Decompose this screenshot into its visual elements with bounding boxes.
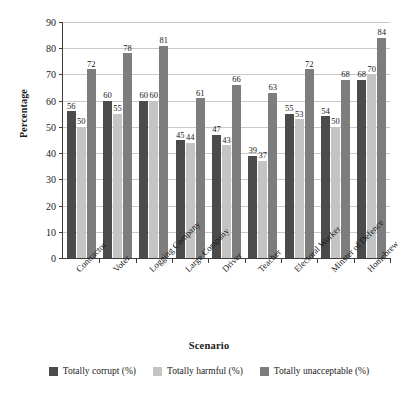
bar: 60: [149, 101, 158, 258]
bar-value-label: 47: [212, 125, 221, 134]
bar-value-label: 50: [77, 117, 86, 126]
x-tick-mark: [245, 258, 246, 263]
bar-value-label: 56: [67, 102, 76, 111]
legend-label: Totally corrupt (%): [63, 366, 136, 376]
bar: 66: [232, 85, 241, 258]
bar-value-label: 68: [341, 70, 350, 79]
bar: 37: [258, 161, 267, 258]
x-tick-mark: [354, 258, 355, 263]
x-tick-mark: [281, 258, 282, 263]
bar-value-label: 70: [368, 65, 377, 74]
y-tick-mark: [59, 153, 63, 154]
bar-group: 565072: [67, 22, 96, 258]
bar-value-label: 44: [186, 133, 195, 142]
bar: 56: [67, 111, 76, 258]
bar: 78: [123, 53, 132, 258]
y-tick-label: 40: [46, 148, 56, 159]
y-tick-mark: [59, 127, 63, 128]
y-tick-mark: [59, 101, 63, 102]
bar-value-label: 84: [378, 28, 387, 37]
bar-group: 555372: [285, 22, 314, 258]
bar-value-label: 55: [113, 104, 122, 113]
legend-label: Totally unacceptable (%): [274, 366, 369, 376]
bar-chart: Percentage 01020304050607080905650726055…: [0, 0, 418, 397]
bar: 61: [196, 98, 205, 258]
bar: 55: [113, 114, 122, 258]
legend-swatch: [260, 367, 269, 376]
y-tick-mark: [59, 74, 63, 75]
bar: 60: [139, 101, 148, 258]
y-tick-label: 90: [46, 17, 56, 28]
bar-value-label: 43: [222, 136, 231, 145]
bar-value-label: 60: [140, 91, 149, 100]
y-axis-title: Percentage: [18, 74, 29, 154]
bar-value-label: 45: [176, 131, 185, 140]
bar: 55: [285, 114, 294, 258]
bar: 72: [87, 69, 96, 258]
bar-value-label: 50: [331, 117, 340, 126]
legend-swatch: [153, 367, 162, 376]
bar-group: 605578: [103, 22, 132, 258]
bar-value-label: 37: [259, 151, 268, 160]
bar: 50: [77, 127, 86, 258]
bar-value-label: 63: [269, 83, 278, 92]
bar-group: 606081: [139, 22, 168, 258]
x-tick-mark: [136, 258, 137, 263]
bar-value-label: 53: [295, 110, 304, 119]
bar-value-label: 68: [358, 70, 367, 79]
legend-item: Totally unacceptable (%): [260, 366, 369, 376]
bar-group: 474366: [212, 22, 241, 258]
y-tick-label: 80: [46, 43, 56, 54]
bar-value-label: 72: [87, 60, 96, 69]
bar: 72: [305, 69, 314, 258]
x-tick-mark: [390, 258, 391, 263]
y-tick-mark: [59, 48, 63, 49]
bar-value-label: 78: [123, 44, 132, 53]
bar-value-label: 72: [305, 60, 314, 69]
y-tick-mark: [59, 179, 63, 180]
legend-item: Totally harmful (%): [153, 366, 243, 376]
legend-item: Totally corrupt (%): [49, 366, 136, 376]
bar-value-label: 66: [232, 75, 241, 84]
x-tick-mark: [317, 258, 318, 263]
bar: 60: [103, 101, 112, 258]
x-tick-mark: [208, 258, 209, 263]
y-tick-label: 0: [51, 253, 56, 264]
chart-legend: Totally corrupt (%)Totally harmful (%)To…: [0, 366, 418, 376]
bar: 43: [222, 145, 231, 258]
bar: 63: [268, 93, 277, 258]
y-tick-label: 30: [46, 174, 56, 185]
legend-label: Totally harmful (%): [167, 366, 243, 376]
bar-value-label: 54: [321, 107, 330, 116]
x-tick-mark: [172, 258, 173, 263]
bar: 53: [295, 119, 304, 258]
plot-area: 0102030405060708090565072605578606081454…: [62, 22, 390, 259]
bar-value-label: 55: [285, 104, 294, 113]
y-tick-mark: [59, 258, 63, 259]
bar-group: 393763: [248, 22, 277, 258]
bar-value-label: 81: [160, 36, 169, 45]
bar-value-label: 61: [196, 89, 205, 98]
bar: 39: [248, 156, 257, 258]
bar-value-label: 60: [103, 91, 112, 100]
x-tick-mark: [99, 258, 100, 263]
y-tick-label: 50: [46, 121, 56, 132]
x-axis-title: Scenario: [0, 340, 418, 351]
legend-swatch: [49, 367, 58, 376]
y-tick-label: 20: [46, 200, 56, 211]
bar-value-label: 60: [150, 91, 159, 100]
y-tick-mark: [59, 22, 63, 23]
bar-group: 545068: [321, 22, 350, 258]
y-tick-label: 70: [46, 69, 56, 80]
y-tick-label: 10: [46, 226, 56, 237]
bar-value-label: 39: [249, 146, 258, 155]
y-tick-label: 60: [46, 95, 56, 106]
y-tick-mark: [59, 206, 63, 207]
y-tick-mark: [59, 232, 63, 233]
bar: 81: [159, 46, 168, 258]
bar: 68: [341, 80, 350, 258]
